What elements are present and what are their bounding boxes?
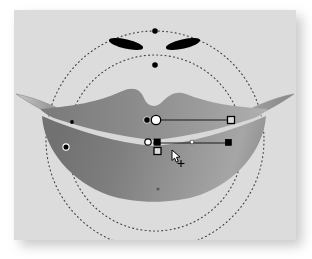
vector-artwork[interactable] bbox=[14, 10, 296, 240]
anchor-outer-top[interactable] bbox=[152, 28, 158, 34]
gradient-origin-lower-icon[interactable] bbox=[145, 139, 151, 145]
gradient-drag-handle-icon[interactable] bbox=[154, 148, 161, 155]
gradient-end-upper-icon[interactable] bbox=[228, 117, 235, 124]
anchor-lip-bottom-mid[interactable] bbox=[156, 187, 159, 190]
gradient-node-lower-icon[interactable] bbox=[154, 139, 160, 145]
anchor-lip-left-lower[interactable] bbox=[63, 144, 69, 150]
artboard-canvas[interactable] bbox=[14, 10, 296, 240]
gradient-midpoint-lower-icon[interactable] bbox=[190, 140, 194, 144]
gradient-origin-upper-icon[interactable] bbox=[144, 117, 151, 124]
screenshot-root bbox=[0, 0, 312, 259]
gradient-node-upper-icon[interactable] bbox=[151, 115, 160, 124]
eye-right-icon[interactable] bbox=[165, 36, 201, 53]
eyes-group[interactable] bbox=[108, 36, 201, 53]
anchor-lip-left-upper[interactable] bbox=[70, 120, 74, 124]
anchor-inner-top[interactable] bbox=[152, 62, 158, 68]
eye-left-icon[interactable] bbox=[108, 36, 144, 53]
gradient-end-lower-icon[interactable] bbox=[226, 140, 232, 146]
